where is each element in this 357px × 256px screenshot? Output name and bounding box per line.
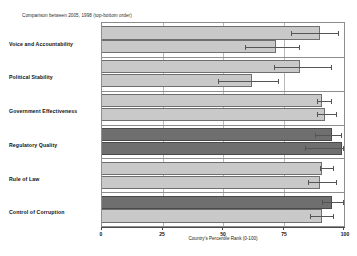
error-bar-government-effectiveness-2005: [317, 101, 332, 102]
error-cap-high: [336, 180, 337, 185]
error-cap-low: [320, 166, 321, 171]
bar-government-effectiveness-2005: [102, 94, 322, 107]
error-bar-voice-and-accountability-1998: [245, 47, 301, 48]
error-cap-low: [308, 180, 309, 185]
error-cap-low: [317, 99, 318, 104]
error-bar-political-stability-1998: [218, 81, 279, 82]
error-bar-rule-of-law-2005: [320, 168, 335, 169]
category-separator: [102, 91, 344, 92]
error-cap-high: [336, 112, 337, 117]
x-tick-75: [283, 227, 284, 230]
error-cap-high: [338, 31, 339, 36]
error-bar-regulatory-quality-1998: [305, 148, 344, 149]
bar-voice-and-accountability-2005: [102, 26, 320, 39]
y-label-text: Political Stability: [5, 74, 53, 80]
error-cap-low: [305, 146, 306, 151]
error-cap-low: [315, 133, 316, 138]
x-axis-title: Country's Percentile Rank (0-100): [101, 236, 345, 241]
y-axis-label-regulatory-quality: Regulatory Quality: [5, 142, 101, 148]
error-cap-low: [291, 31, 292, 36]
error-cap-low: [218, 79, 219, 84]
category-separator: [102, 57, 344, 58]
bar-rule-of-law-2005: [102, 162, 322, 175]
error-cap-low: [317, 112, 318, 117]
y-label-text: Control of Corruption: [5, 209, 65, 215]
x-tick-100: [343, 227, 344, 230]
error-cap-high: [299, 45, 300, 50]
bar-control-of-corruption-2005: [102, 196, 332, 209]
error-cap-high: [343, 200, 344, 205]
error-cap-low: [322, 200, 323, 205]
category-separator: [102, 158, 344, 159]
error-cap-high: [331, 99, 332, 104]
y-axis-label-voice-and-accountability: Voice and Accountability: [5, 41, 101, 47]
error-cap-low: [274, 65, 275, 70]
y-axis-label-control-of-corruption: Control of Corruption: [5, 209, 101, 215]
x-axis: [101, 227, 345, 228]
bar-government-effectiveness-1998: [102, 108, 325, 121]
x-tick-0: [101, 227, 102, 230]
y-axis-label-rule-of-law: Rule of Law: [5, 176, 101, 182]
error-bar-voice-and-accountability-2005: [291, 33, 339, 34]
error-bar-political-stability-2005: [274, 67, 332, 68]
chart-subtitle: Comparison between 2005, 1998 (top-botto…: [22, 13, 132, 18]
bar-rule-of-law-1998: [102, 176, 320, 189]
error-cap-high: [331, 65, 332, 70]
x-tick-50: [222, 227, 223, 230]
error-cap-high: [278, 79, 279, 84]
error-bar-government-effectiveness-1998: [317, 114, 336, 115]
y-label-text: Voice and Accountability: [5, 41, 73, 47]
bar-regulatory-quality-2005: [102, 128, 332, 141]
bar-control-of-corruption-1998: [102, 209, 322, 222]
error-bar-control-of-corruption-1998: [310, 216, 334, 217]
error-bar-rule-of-law-1998: [308, 182, 337, 183]
error-cap-low: [245, 45, 246, 50]
error-cap-high: [341, 133, 342, 138]
error-bar-control-of-corruption-2005: [322, 202, 344, 203]
category-separator: [102, 125, 344, 126]
chart-root: Comparison between 2005, 1998 (top-botto…: [0, 0, 357, 256]
y-label-text: Government Effectiveness: [5, 108, 77, 114]
error-bar-regulatory-quality-2005: [315, 135, 342, 136]
y-axis-label-political-stability: Political Stability: [5, 74, 101, 80]
plot-area: [101, 22, 345, 227]
bar-political-stability-2005: [102, 60, 300, 73]
x-tick-25: [162, 227, 163, 230]
error-cap-high: [343, 146, 344, 151]
category-separator: [102, 192, 344, 193]
y-axis-label-government-effectiveness: Government Effectiveness: [5, 108, 101, 114]
error-cap-high: [333, 214, 334, 219]
y-label-text: Regulatory Quality: [5, 142, 57, 148]
error-cap-low: [310, 214, 311, 219]
error-cap-high: [333, 166, 334, 171]
y-label-text: Rule of Law: [5, 176, 39, 182]
